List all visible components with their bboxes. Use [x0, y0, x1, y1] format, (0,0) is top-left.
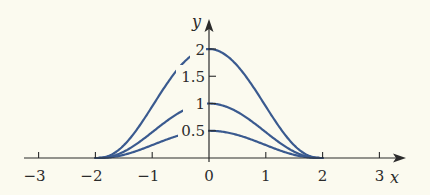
x-ticks: −3−2−10123 [24, 152, 385, 185]
y-tick-label: 2 [195, 41, 205, 59]
x-axis-label: x [390, 168, 399, 187]
x-axis [24, 154, 406, 163]
x-tick-label: −2 [80, 167, 102, 185]
x-tick-label: −1 [137, 167, 159, 185]
x-tick-label: 0 [204, 167, 214, 185]
x-tick-label: 1 [261, 167, 271, 185]
y-tick-label: 1 [195, 95, 205, 113]
x-tick-label: −3 [24, 167, 46, 185]
y-axis-label: y [191, 12, 202, 31]
y-tick-label: 1.5 [181, 68, 205, 86]
x-tick-label: 2 [318, 167, 328, 185]
chart: −3−2−10123 0.511.52 x y [0, 0, 430, 195]
y-ticks: 0.511.52 [181, 41, 216, 141]
y-tick-label: 0.5 [181, 122, 205, 140]
x-tick-label: 3 [375, 167, 385, 185]
